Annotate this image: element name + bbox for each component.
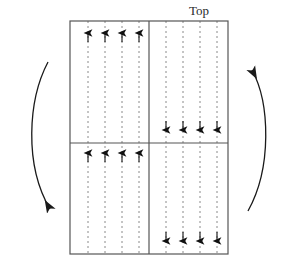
upper-left-up-arrows xyxy=(88,33,139,42)
diagram-canvas: Top xyxy=(0,0,299,264)
lower-right-down-arrows xyxy=(166,232,217,241)
upper-right-down-arrows xyxy=(166,121,217,130)
convection-cell-diagram: Top xyxy=(0,0,299,264)
dashed-field-lines-left xyxy=(88,21,139,254)
dashed-field-lines-right xyxy=(166,21,217,254)
top-label: Top xyxy=(189,3,209,18)
left-circulation-arrow xyxy=(32,62,50,209)
right-circulation-arrow xyxy=(248,70,266,211)
lower-left-up-arrows xyxy=(88,153,139,162)
